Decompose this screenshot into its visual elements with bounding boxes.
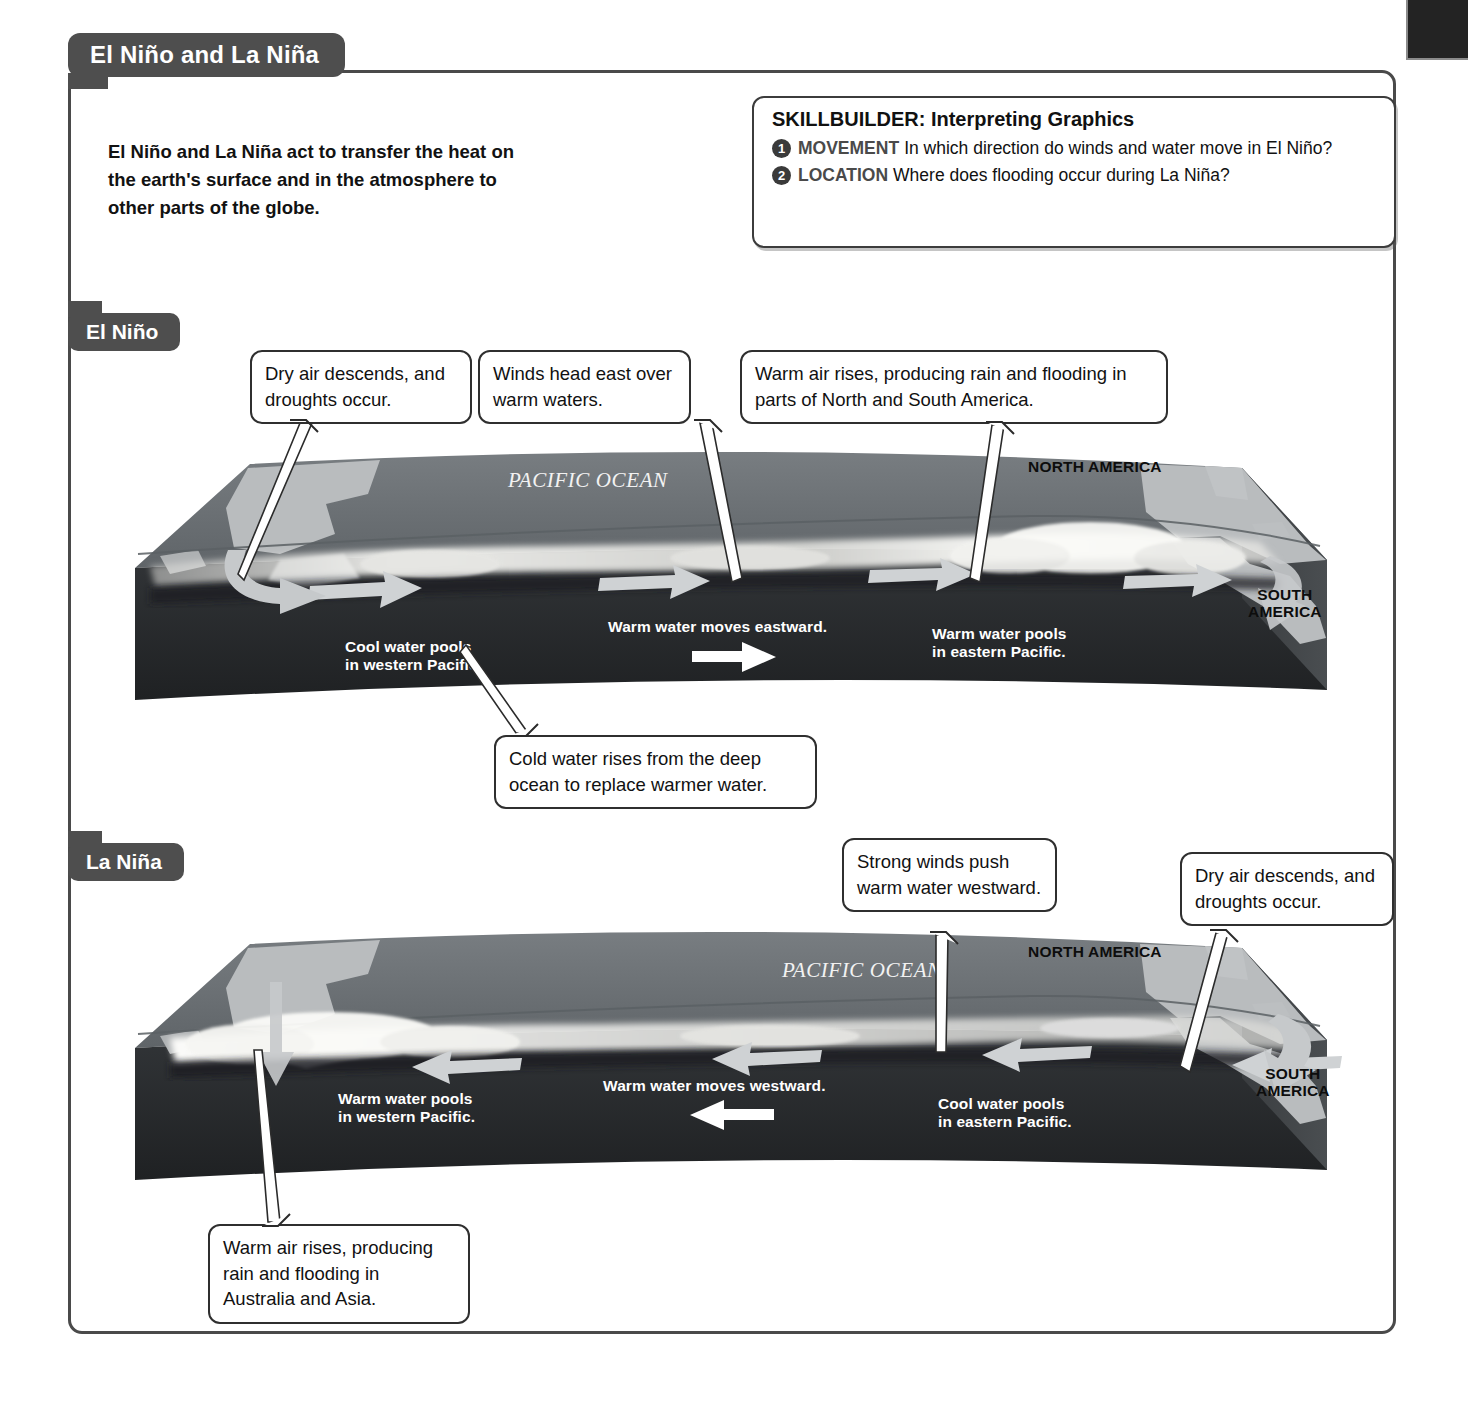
callout-el-nino-warm-air-rises: Warm air rises, producing rain and flood… <box>740 350 1168 424</box>
question-keyword-movement: MOVEMENT <box>798 138 899 158</box>
section-label-la-nina-text: La Niña <box>86 850 162 874</box>
page-title-label: El Niño and La Niña <box>90 41 319 69</box>
el-nino-south-america-label: SOUTHAMERICA <box>1248 586 1322 621</box>
el-nino-block-diagram <box>130 438 1385 738</box>
callout-el-nino-dry-air: Dry air descends, and droughts occur. <box>250 350 472 424</box>
page-title: El Niño and La Niña <box>68 33 345 77</box>
question-text-1: In which direction do winds and water mo… <box>904 138 1332 158</box>
skillbuilder-question-1: 1 MOVEMENTIn which direction do winds an… <box>772 137 1378 160</box>
el-nino-north-america-label: NORTH AMERICA <box>1028 458 1162 475</box>
la-nina-ocean-label: PACIFIC OCEAN <box>782 958 942 983</box>
la-nina-block-diagram <box>130 918 1385 1218</box>
section-label-la-nina: La Niña <box>68 843 184 881</box>
el-nino-west-pool-label: Cool water poolsin western Pacific. <box>345 638 482 675</box>
skillbuilder-question-2: 2 LOCATIONWhere does flooding occur duri… <box>772 164 1378 187</box>
number-badge-1: 1 <box>772 139 791 158</box>
la-nina-north-america-label: NORTH AMERICA <box>1028 943 1162 960</box>
question-keyword-location: LOCATION <box>798 165 888 185</box>
intro-paragraph: El Niño and La Niña act to transfer the … <box>108 138 538 221</box>
el-nino-flow-label: Warm water moves eastward. <box>608 618 827 636</box>
callout-la-nina-strong-winds: Strong winds push warm water westward. <box>842 838 1057 912</box>
section-label-el-nino-text: El Niño <box>86 320 158 344</box>
la-nina-flow-label: Warm water moves westward. <box>603 1077 826 1095</box>
callout-el-nino-winds-east: Winds head east over warm waters. <box>478 350 691 424</box>
el-nino-ocean-label: PACIFIC OCEAN <box>508 468 668 493</box>
number-badge-2: 2 <box>772 166 791 185</box>
callout-la-nina-dry-air: Dry air descends, and droughts occur. <box>1180 852 1394 926</box>
page-corner-tab <box>1406 0 1468 60</box>
question-text-2: Where does flooding occur during La Niña… <box>893 165 1230 185</box>
callout-la-nina-warm-air-rises: Warm air rises, producing rain and flood… <box>208 1224 470 1324</box>
la-nina-west-pool-label: Warm water poolsin western Pacific. <box>338 1090 475 1127</box>
callout-el-nino-cold-water-rises: Cold water rises from the deep ocean to … <box>494 735 817 809</box>
el-nino-east-pool-label: Warm water poolsin eastern Pacific. <box>932 625 1067 662</box>
la-nina-south-america-label: SOUTHAMERICA <box>1256 1065 1330 1100</box>
section-label-el-nino: El Niño <box>68 313 180 351</box>
skillbuilder-title: SKILLBUILDER: Interpreting Graphics <box>772 108 1378 131</box>
la-nina-east-pool-label: Cool water poolsin eastern Pacific. <box>938 1095 1072 1132</box>
el-nino-eastward-arrow-icon <box>690 640 780 674</box>
la-nina-westward-arrow-icon <box>686 1098 776 1132</box>
skillbuilder-box: SKILLBUILDER: Interpreting Graphics 1 MO… <box>752 96 1396 248</box>
